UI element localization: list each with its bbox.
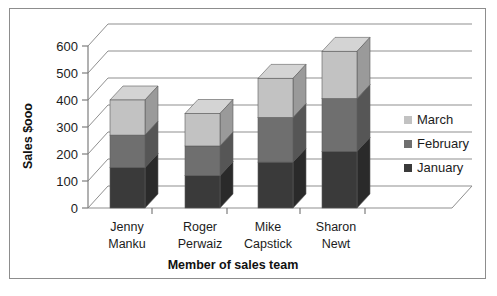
legend-swatch-february [404, 140, 412, 148]
y-axis [82, 46, 88, 208]
bar-roger-january-front [185, 176, 220, 208]
gridline-600-riser [88, 51, 108, 73]
y-axis-title: Sales $ooo [21, 103, 35, 169]
legend-item-january[interactable]: January [404, 160, 464, 175]
legend-swatch-january [404, 164, 412, 172]
gridline-500-riser [88, 78, 108, 100]
y-tick-label-600: 600 [56, 39, 78, 54]
gridline-400-riser [88, 105, 108, 127]
x-axis-title: Member of sales team [168, 258, 299, 272]
legend-swatch-march [404, 116, 412, 124]
bar-sharon-january-front [322, 151, 357, 208]
y-tick-label-0: 0 [71, 201, 78, 216]
gridline-300-riser [88, 132, 108, 154]
bar-mike-january-front [258, 162, 293, 208]
x-label-roger-line2: Perwaiz [178, 237, 222, 251]
bar-jenny-january-front [110, 168, 145, 209]
bar-sharon-february-front [322, 99, 357, 152]
x-label-jenny-line2: Manku [108, 237, 146, 251]
bar-roger-february-front [185, 146, 220, 176]
bar-roger-march-front [185, 114, 220, 147]
legend-item-february[interactable]: February [404, 136, 470, 151]
y-tick-label-500: 500 [56, 66, 78, 81]
y-tick-label-200: 200 [56, 147, 78, 162]
chart-canvas: 600 500 400 300 200 100 0 Sales $ooo [0, 0, 497, 296]
gridline-top-riser [88, 24, 108, 46]
x-label-mike-line2: Capstick [244, 237, 293, 251]
bar-group-jenny-manku[interactable] [110, 86, 158, 208]
x-label-sharon-line1: Sharon [316, 220, 356, 234]
chart-container: 600 500 400 300 200 100 0 Sales $ooo [0, 0, 497, 296]
legend-label-march: March [417, 112, 453, 127]
bar-group-sharon-newt[interactable] [322, 37, 370, 208]
bar-jenny-march-front [110, 100, 145, 135]
bar-jenny-february-front [110, 135, 145, 167]
gridline-200-riser [88, 159, 108, 181]
bar-sharon-march-front [322, 51, 357, 98]
x-label-jenny-line1: Jenny [110, 220, 144, 234]
x-axis-ticks [152, 208, 365, 214]
floor-right-edge [452, 186, 472, 208]
y-tick-label-400: 400 [56, 93, 78, 108]
bar-mike-march-front [258, 78, 293, 117]
y-tick-label-100: 100 [56, 174, 78, 189]
x-label-mike-line1: Mike [255, 220, 281, 234]
bar-group-mike-capstick[interactable] [258, 64, 306, 208]
x-category-labels: Jenny Manku Roger Perwaiz Mike Capstick … [108, 220, 356, 251]
legend: March February January [404, 112, 470, 175]
x-label-sharon-line2: Newt [322, 237, 351, 251]
legend-label-february: February [417, 136, 470, 151]
bar-group-roger-perwaiz[interactable] [185, 100, 233, 209]
legend-item-march[interactable]: March [404, 112, 453, 127]
bar-mike-february-front [258, 118, 293, 163]
legend-label-january: January [417, 160, 464, 175]
gridline-100-riser [88, 186, 108, 208]
y-tick-label-300: 300 [56, 120, 78, 135]
x-label-roger-line1: Roger [183, 220, 217, 234]
